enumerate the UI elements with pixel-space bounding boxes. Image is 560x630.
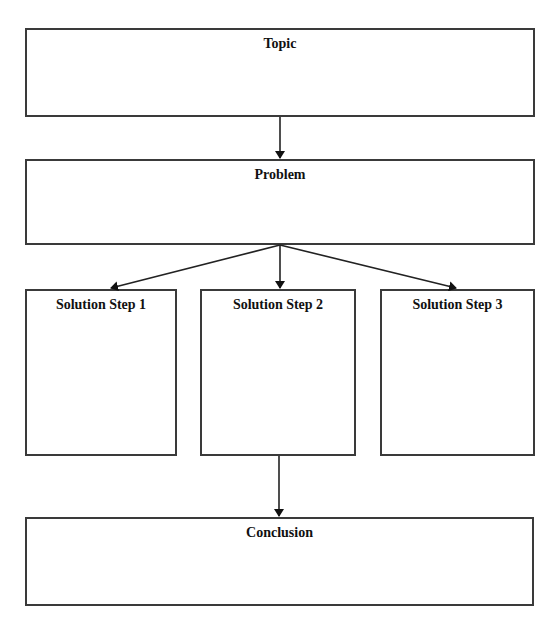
solution-step-1-label: Solution Step 1 bbox=[27, 297, 175, 313]
arrow-problem-to-step1 bbox=[111, 245, 280, 288]
solution-step-3-label: Solution Step 3 bbox=[382, 297, 533, 313]
conclusion-box: Conclusion bbox=[25, 517, 534, 606]
topic-box: Topic bbox=[25, 28, 535, 117]
problem-box: Problem bbox=[25, 159, 535, 245]
topic-label: Topic bbox=[27, 36, 533, 52]
solution-step-2-label: Solution Step 2 bbox=[202, 297, 354, 313]
conclusion-label: Conclusion bbox=[27, 525, 532, 541]
arrow-problem-to-step3 bbox=[280, 245, 456, 288]
solution-step-3-box: Solution Step 3 bbox=[380, 289, 535, 456]
flowchart-canvas: Topic Problem Solution Step 1 Solution S… bbox=[0, 0, 560, 630]
solution-step-2-box: Solution Step 2 bbox=[200, 289, 356, 456]
solution-step-1-box: Solution Step 1 bbox=[25, 289, 177, 456]
problem-label: Problem bbox=[27, 167, 533, 183]
